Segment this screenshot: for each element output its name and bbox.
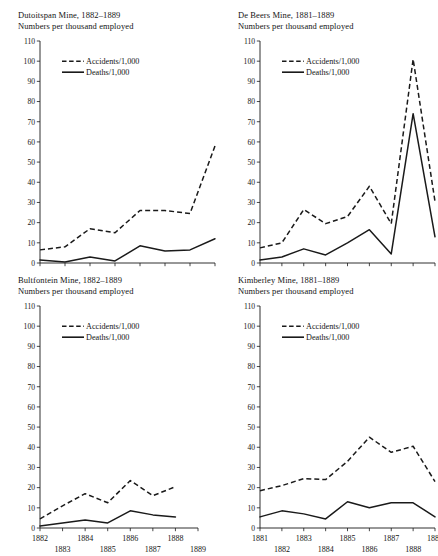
chart-svg-kimberley: 0102030405060708090100110188118821883188… <box>238 296 438 556</box>
x-axis-tick-label: 1886 <box>361 545 377 554</box>
y-axis-tick-label: 110 <box>244 302 255 311</box>
legend-label-accidents: Accidents/1,000 <box>306 57 359 66</box>
legend-label-accidents: Accidents/1,000 <box>306 322 359 331</box>
x-axis-tick-label: 1883 <box>55 545 71 554</box>
x-axis-tick-label: 1882 <box>32 534 48 543</box>
y-axis-tick-label: 0 <box>31 524 35 533</box>
y-axis-tick-label: 80 <box>247 97 255 106</box>
y-axis-tick-label: 110 <box>24 302 35 311</box>
legend-label-accidents: Accidents/1,000 <box>86 322 139 331</box>
chart-subtitle: Numbers per thousand employed <box>238 286 438 297</box>
chart-svg-dutoitspan: 0102030405060708090100110Accidents/1,000… <box>18 31 218 279</box>
chart-subtitle: Numbers per thousand employed <box>238 21 438 32</box>
y-axis-tick-label: 70 <box>27 118 35 127</box>
y-axis-tick-label: 10 <box>27 504 35 513</box>
series-line-deaths <box>40 239 215 262</box>
x-axis-tick-label: 1884 <box>77 534 93 543</box>
y-axis-tick-label: 10 <box>27 239 35 248</box>
y-axis-tick-label: 100 <box>244 57 256 66</box>
y-axis-tick-label: 80 <box>27 97 35 106</box>
y-axis-tick-label: 90 <box>27 342 35 351</box>
y-axis-tick-label: 70 <box>247 383 255 392</box>
series-line-accidents <box>40 146 215 250</box>
chart-panel-bultfontein: Bultfontein Mine, 1882–1889 Numbers per … <box>18 275 218 556</box>
y-axis-tick-label: 110 <box>24 37 35 46</box>
y-axis-tick-label: 30 <box>247 198 255 207</box>
chart-title: De Beers Mine, 1881–1889 <box>238 10 438 21</box>
plot-area: 0102030405060708090100110188218831884188… <box>18 296 218 556</box>
legend-label-deaths: Deaths/1,000 <box>86 333 129 342</box>
series-line-deaths <box>40 511 175 526</box>
y-axis-tick-label: 0 <box>251 259 255 268</box>
x-axis-tick-label: 1885 <box>340 534 356 543</box>
x-axis-tick-label: 1887 <box>383 534 399 543</box>
y-axis-tick-label: 10 <box>247 239 255 248</box>
chart-title: Bultfontein Mine, 1882–1889 <box>18 275 218 286</box>
y-axis-tick-label: 110 <box>244 37 255 46</box>
series-line-accidents <box>40 481 175 519</box>
y-axis-tick-label: 10 <box>247 504 255 513</box>
chart-title: Kimberley Mine, 1881–1889 <box>238 275 438 286</box>
chart-panel-debeers: De Beers Mine, 1881–1889 Numbers per tho… <box>238 10 438 279</box>
plot-area: 0102030405060708090100110Accidents/1,000… <box>18 31 218 279</box>
x-axis-tick-label: 1889 <box>190 545 206 554</box>
y-axis-tick-label: 90 <box>27 77 35 86</box>
series-line-deaths <box>260 502 435 519</box>
chart-subtitle: Numbers per thousand employed <box>18 286 218 297</box>
y-axis-tick-label: 50 <box>247 423 255 432</box>
x-axis-tick-label: 1885 <box>100 545 116 554</box>
x-axis-tick-label: 1887 <box>145 545 161 554</box>
y-axis-tick-label: 0 <box>251 524 255 533</box>
y-axis-tick-label: 70 <box>247 118 255 127</box>
y-axis-tick-label: 30 <box>27 198 35 207</box>
x-axis-tick-label: 1888 <box>167 534 183 543</box>
x-axis-tick-label: 1886 <box>122 534 138 543</box>
y-axis-tick-label: 100 <box>24 322 36 331</box>
chart-subtitle: Numbers per thousand employed <box>18 21 218 32</box>
y-axis-tick-label: 90 <box>247 342 255 351</box>
legend-label-deaths: Deaths/1,000 <box>306 333 349 342</box>
y-axis-tick-label: 30 <box>247 463 255 472</box>
x-axis-tick-label: 1881 <box>252 534 268 543</box>
chart-title: Dutoitspan Mine, 1882–1889 <box>18 10 218 21</box>
y-axis-tick-label: 90 <box>247 77 255 86</box>
y-axis-tick-label: 100 <box>244 322 256 331</box>
chart-panel-dutoitspan: Dutoitspan Mine, 1882–1889 Numbers per t… <box>18 10 218 279</box>
x-axis-tick-label: 1889 <box>427 534 438 543</box>
y-axis-tick-label: 40 <box>27 178 35 187</box>
legend-label-deaths: Deaths/1,000 <box>86 68 129 77</box>
series-line-accidents <box>260 437 435 490</box>
legend-label-accidents: Accidents/1,000 <box>86 57 139 66</box>
y-axis-tick-label: 60 <box>27 138 35 147</box>
x-axis-tick-label: 1882 <box>274 545 290 554</box>
y-axis-tick-label: 60 <box>247 138 255 147</box>
y-axis-tick-label: 40 <box>247 178 255 187</box>
chart-svg-bultfontein: 0102030405060708090100110188218831884188… <box>18 296 218 556</box>
x-axis-tick-label: 1883 <box>296 534 312 543</box>
y-axis-tick-label: 100 <box>24 57 36 66</box>
y-axis-tick-label: 60 <box>247 403 255 412</box>
x-axis-tick-label: 1884 <box>318 545 334 554</box>
series-line-deaths <box>260 114 435 260</box>
y-axis-tick-label: 80 <box>247 362 255 371</box>
y-axis-tick-label: 60 <box>27 403 35 412</box>
y-axis-tick-label: 20 <box>247 218 255 227</box>
y-axis-tick-label: 0 <box>31 259 35 268</box>
y-axis-tick-label: 50 <box>27 423 35 432</box>
y-axis-tick-label: 40 <box>27 443 35 452</box>
y-axis-tick-label: 20 <box>247 483 255 492</box>
plot-area: 0102030405060708090100110188118821883188… <box>238 296 438 556</box>
y-axis-tick-label: 50 <box>27 158 35 167</box>
chart-panel-kimberley: Kimberley Mine, 1881–1889 Numbers per th… <box>238 275 438 556</box>
y-axis-tick-label: 70 <box>27 383 35 392</box>
chart-svg-debeers: 0102030405060708090100110Accidents/1,000… <box>238 31 438 279</box>
y-axis-tick-label: 40 <box>247 443 255 452</box>
y-axis-tick-label: 20 <box>27 218 35 227</box>
y-axis-tick-label: 50 <box>247 158 255 167</box>
y-axis-tick-label: 80 <box>27 362 35 371</box>
plot-area: 0102030405060708090100110Accidents/1,000… <box>238 31 438 279</box>
y-axis-tick-label: 30 <box>27 463 35 472</box>
series-line-accidents <box>260 59 435 248</box>
y-axis-tick-label: 20 <box>27 483 35 492</box>
